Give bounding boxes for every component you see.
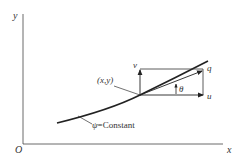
point-leader-line	[114, 86, 140, 95]
streamline-leader-line	[78, 116, 92, 124]
x-axis-label: x	[226, 144, 232, 155]
q-arrow	[140, 71, 202, 95]
v-label: v	[133, 60, 137, 70]
y-axis-label: y	[12, 10, 18, 21]
streamline-label: ψ=Constant	[92, 120, 135, 130]
streamline-curve	[57, 61, 208, 123]
streamline-velocity-diagram: y O x v u q θ (x,y) ψ=Constant	[0, 0, 246, 160]
q-label: q	[207, 63, 212, 73]
u-label: u	[207, 91, 212, 101]
point-label: (x,y)	[97, 75, 113, 85]
origin-label: O	[15, 144, 22, 155]
theta-label: θ	[179, 84, 184, 94]
